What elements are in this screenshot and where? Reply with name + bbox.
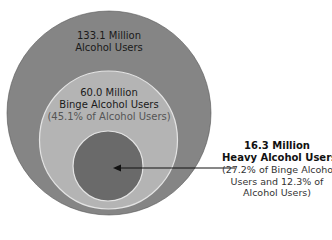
heavy-users-value: 16.3 Million xyxy=(222,140,332,152)
heavy-users-note-line: Users and 12.3% of xyxy=(222,176,332,188)
heavy-users-text: Heavy Alcohol Users xyxy=(222,152,332,164)
binge-users-text: Binge Alcohol Users xyxy=(38,99,180,111)
alcohol-users-text: Alcohol Users xyxy=(59,42,159,54)
alcohol-users-value: 133.1 Million xyxy=(59,30,159,42)
alcohol-users-label: 133.1 Million Alcohol Users xyxy=(59,30,159,54)
binge-alcohol-users-label: 60.0 Million Binge Alcohol Users (45.1% … xyxy=(38,87,180,123)
heavy-alcohol-users-label: 16.3 Million Heavy Alcohol Users (27.2% … xyxy=(222,140,332,199)
heavy-users-note-line: (27.2% of Binge Alcohol xyxy=(222,164,332,176)
binge-users-value: 60.0 Million xyxy=(38,87,180,99)
heavy-alcohol-users-circle xyxy=(73,131,143,201)
binge-users-note: (45.1% of Alcohol Users) xyxy=(38,111,180,123)
heavy-users-note-line: Alcohol Users) xyxy=(222,187,332,199)
